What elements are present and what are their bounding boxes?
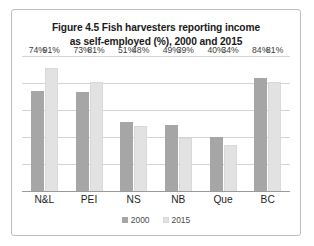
category-label-nb: NB xyxy=(156,194,201,205)
category-axis: N&LPEINSNBQueBC xyxy=(22,194,290,205)
legend-label: 2015 xyxy=(172,215,191,225)
bar-value-label: 81% xyxy=(87,45,104,55)
bar[interactable]: 51% xyxy=(120,122,133,191)
bar-wrapper: 73% xyxy=(76,56,89,191)
bar[interactable]: 84% xyxy=(254,78,267,191)
legend-swatch-icon xyxy=(163,217,169,223)
bar[interactable]: 74% xyxy=(31,91,44,191)
bar-group: 73%81% xyxy=(67,56,112,191)
chart-title-line-1: Figure 4.5 Fish harvesters reporting inc… xyxy=(12,21,300,35)
bar-wrapper: 48% xyxy=(134,56,147,191)
bar[interactable]: 48% xyxy=(134,126,147,191)
bar-group: 84%81% xyxy=(245,56,290,191)
bar[interactable]: 49% xyxy=(165,125,178,191)
legend-item-2015[interactable]: 2015 xyxy=(163,215,191,225)
bar[interactable]: 39% xyxy=(179,138,192,191)
bar-wrapper: 81% xyxy=(90,56,103,191)
plot-area: 74%91%73%81%51%48%49%39%40%34%84%81% xyxy=(22,56,290,192)
bar[interactable]: 81% xyxy=(90,82,103,191)
category-label-bc: BC xyxy=(245,194,290,205)
chart-legend: 20002015 xyxy=(12,215,300,225)
bar-value-label: 48% xyxy=(132,45,149,55)
bar-group: 40%34% xyxy=(201,56,246,191)
bar-group: 49%39% xyxy=(156,56,201,191)
bar[interactable]: 81% xyxy=(268,82,281,191)
legend-swatch-icon xyxy=(122,217,128,223)
axis-baseline xyxy=(22,191,290,192)
bar-wrapper: 49% xyxy=(165,56,178,191)
bar[interactable]: 91% xyxy=(45,68,58,191)
bar-group: 74%91% xyxy=(22,56,67,191)
bar[interactable]: 73% xyxy=(76,92,89,191)
bar-value-label: 39% xyxy=(177,45,194,55)
bar-group: 51%48% xyxy=(111,56,156,191)
bar[interactable]: 34% xyxy=(224,145,237,191)
bar-wrapper: 40% xyxy=(210,56,223,191)
chart-title: Figure 4.5 Fish harvesters reporting inc… xyxy=(12,21,300,48)
figure-frame: Figure 4.5 Fish harvesters reporting inc… xyxy=(11,9,301,236)
bars-layer: 74%91%73%81%51%48%49%39%40%34%84%81% xyxy=(22,56,290,191)
category-label-n-l: N&L xyxy=(22,194,67,205)
category-label-que: Que xyxy=(201,194,246,205)
bar-wrapper: 81% xyxy=(268,56,281,191)
bar-wrapper: 39% xyxy=(179,56,192,191)
bar-wrapper: 34% xyxy=(224,56,237,191)
bar-wrapper: 84% xyxy=(254,56,267,191)
bar-wrapper: 51% xyxy=(120,56,133,191)
legend-item-2000[interactable]: 2000 xyxy=(122,215,150,225)
bar-value-label: 91% xyxy=(43,45,60,55)
category-label-ns: NS xyxy=(111,194,156,205)
bar-wrapper: 91% xyxy=(45,56,58,191)
bar-value-label: 81% xyxy=(266,45,283,55)
bar[interactable]: 40% xyxy=(210,137,223,191)
bar-wrapper: 74% xyxy=(31,56,44,191)
bar-value-label: 34% xyxy=(221,45,238,55)
category-label-pei: PEI xyxy=(67,194,112,205)
legend-label: 2000 xyxy=(131,215,150,225)
